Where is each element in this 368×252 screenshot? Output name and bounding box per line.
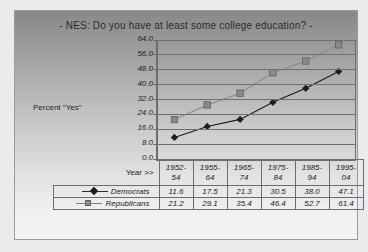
cell-democrats-5: 47.1	[329, 186, 363, 198]
series-line-democrats	[174, 71, 338, 137]
data-point-democrats-2	[236, 116, 243, 123]
gridline	[158, 114, 355, 115]
plot-area	[156, 40, 356, 161]
year-header-line: 1965-	[228, 163, 261, 172]
table-row-years: Year >> 1952-541955-641965-741975-841985…	[54, 160, 364, 186]
year-header-2: 1965-74	[227, 160, 261, 186]
series-line-republicans	[174, 45, 338, 120]
y-axis-tickmark	[153, 129, 157, 130]
data-table: Year >> 1952-541955-641965-741975-841985…	[53, 159, 353, 210]
y-axis-tickmark	[153, 84, 157, 85]
year-header-0: 1952-54	[159, 160, 193, 186]
chart-panel: - NES: Do you have at least some college…	[14, 10, 358, 240]
y-axis-tick: 16.0	[137, 124, 153, 132]
y-axis-tickmark	[153, 99, 157, 100]
legend-label: Democrats	[111, 187, 150, 196]
legend-label: Republicans	[105, 199, 149, 208]
y-axis-label: Percent "Yes"	[33, 103, 82, 112]
year-header-line: 54	[160, 173, 193, 182]
gridline	[158, 40, 355, 41]
cell-democrats-4: 38.0	[295, 186, 329, 198]
y-axis-tickmark	[153, 159, 157, 160]
cell-democrats-1: 17.5	[193, 186, 227, 198]
year-header-line: 1985-	[296, 163, 329, 172]
year-header-line: 74	[228, 173, 261, 182]
y-axis-tickmark	[153, 144, 157, 145]
data-point-republicans-3	[270, 70, 276, 76]
y-axis-tick: 8.0	[142, 139, 153, 147]
y-axis-tick: 24.0	[137, 109, 153, 117]
y-axis-tick: 48.0	[137, 65, 153, 73]
gridline	[158, 129, 355, 130]
gridline	[158, 54, 355, 55]
year-header-line: 04	[330, 173, 363, 182]
cell-republicans-1: 29.1	[193, 198, 227, 210]
cell-republicans-4: 52.7	[295, 198, 329, 210]
year-axis-label: Year >>	[54, 160, 160, 186]
legend-line-democrats	[82, 191, 108, 192]
y-axis-tickmark	[153, 54, 157, 55]
year-header-4: 1985-94	[295, 160, 329, 186]
y-axis-tick: 56.0	[137, 50, 153, 58]
year-header-line: 1975-	[262, 163, 295, 172]
legend-line-republicans	[76, 203, 102, 204]
y-axis-tickmark	[153, 114, 157, 115]
gridline	[158, 99, 355, 100]
y-axis-tickmark	[153, 69, 157, 70]
data-table-grid: Year >> 1952-541955-641965-741975-841985…	[53, 159, 364, 210]
y-axis-tick: 32.0	[137, 95, 153, 103]
data-point-republicans-2	[237, 90, 243, 96]
y-axis-tick-labels: 64.056.048.040.032.024.016.08.00.0	[111, 40, 153, 159]
data-point-republicans-4	[303, 58, 309, 64]
data-point-democrats-0	[171, 134, 178, 141]
diamond-marker-icon	[90, 187, 98, 195]
y-axis-tick: 64.0	[137, 35, 153, 43]
y-axis-tickmark	[153, 40, 157, 41]
cell-republicans-5: 61.4	[329, 198, 363, 210]
legend-democrats: Democrats	[54, 186, 160, 198]
table-row-democrats: Democrats11.617.521.330.538.047.1	[54, 186, 364, 198]
gridline	[158, 84, 355, 85]
year-header-line: 94	[296, 173, 329, 182]
data-point-republicans-1	[204, 102, 210, 108]
data-point-democrats-4	[302, 85, 309, 92]
year-header-line: 1955-	[194, 163, 227, 172]
year-header-line: 84	[262, 173, 295, 182]
cell-democrats-2: 21.3	[227, 186, 261, 198]
y-axis-tick: 40.0	[137, 80, 153, 88]
year-header-5: 1995-04	[329, 160, 363, 186]
cell-republicans-3: 46.4	[261, 198, 295, 210]
data-point-republicans-0	[171, 116, 177, 122]
gridline	[158, 69, 355, 70]
gridline	[158, 144, 355, 145]
year-header-line: 1995-	[330, 163, 363, 172]
table-row-republicans: Republicans21.229.135.446.452.761.4	[54, 198, 364, 210]
year-header-line: 64	[194, 173, 227, 182]
year-header-3: 1975-84	[261, 160, 295, 186]
cell-democrats-3: 30.5	[261, 186, 295, 198]
cell-republicans-0: 21.2	[159, 198, 193, 210]
data-point-republicans-5	[335, 42, 341, 48]
chart-title: - NES: Do you have at least some college…	[15, 20, 357, 31]
cell-republicans-2: 35.4	[227, 198, 261, 210]
legend-republicans: Republicans	[54, 198, 160, 210]
year-header-1: 1955-64	[193, 160, 227, 186]
cell-democrats-0: 11.6	[159, 186, 193, 198]
square-marker-icon	[85, 200, 91, 206]
screenshot-root: - NES: Do you have at least some college…	[0, 0, 368, 252]
year-header-line: 1952-	[160, 163, 193, 172]
